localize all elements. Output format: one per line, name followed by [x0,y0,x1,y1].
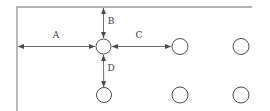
hole-circles [96,39,249,104]
dimension-lines [18,8,171,87]
hole-middle-3 [233,39,249,55]
dim-b-label: B [108,16,115,26]
hole-bottom-3 [233,87,249,103]
dim-c-label: C [136,30,143,40]
dim-a-label: A [52,30,60,40]
hole-bottom-2 [172,87,188,103]
diagram-canvas: ABCD [0,0,270,111]
dim-d-label: D [107,63,114,73]
hole-middle-2 [172,39,188,55]
hole-center [96,39,111,54]
dimension-diagram: ABCD [0,0,270,111]
hole-bottom-1 [97,88,112,103]
datum-reference-lines [17,6,252,111]
